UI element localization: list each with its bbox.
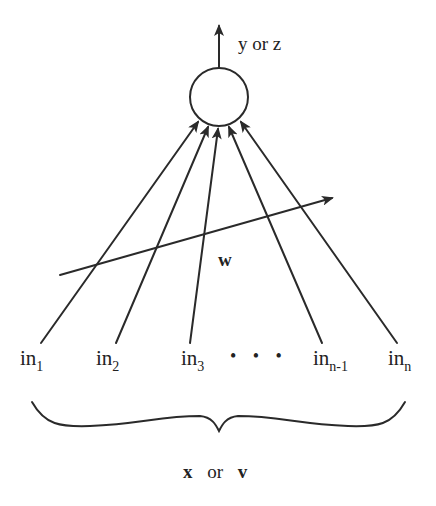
input-connections [41, 122, 397, 343]
input-label-2: in2 [96, 346, 119, 374]
input-label-n: inn [388, 346, 411, 374]
input-vector-label: x or v [183, 461, 248, 482]
input-label-n-minus-1: inn-1 [313, 346, 348, 374]
neuron-node [190, 68, 248, 126]
input-label-1: in1 [20, 346, 43, 374]
input-label-3: in3 [181, 346, 204, 374]
ellipsis: • • • [230, 346, 288, 366]
neuron-diagram: y or z w in1 in2 in3 • • • inn-1 inn [0, 0, 436, 506]
connection-in-n-minus-1 [229, 127, 322, 343]
input-group-brace [32, 402, 405, 431]
output-label: y or z [238, 33, 281, 54]
weight-vector-arrow [60, 198, 332, 275]
connection-in-n [241, 122, 397, 343]
connection-in1 [41, 122, 198, 343]
input-labels: in1 in2 in3 • • • inn-1 inn [20, 346, 411, 374]
weight-label: w [218, 249, 232, 270]
